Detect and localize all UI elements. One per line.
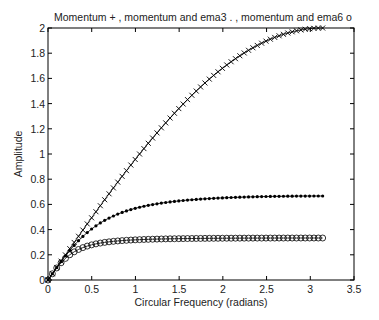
plus-marker-icon <box>159 125 164 130</box>
dot-marker-icon <box>160 202 163 205</box>
dot-marker-icon <box>216 196 219 199</box>
dot-marker-icon <box>212 197 215 200</box>
dot-marker-icon <box>247 195 250 198</box>
dot-marker-icon <box>199 198 202 201</box>
plus-marker-icon <box>137 152 142 157</box>
plus-marker-icon <box>98 203 103 208</box>
y-tick-label: 0 <box>39 274 45 286</box>
dot-marker-icon <box>225 196 228 199</box>
plus-marker-icon <box>224 62 229 67</box>
y-tick-label: 1 <box>39 148 45 160</box>
plus-marker-icon <box>93 209 98 214</box>
plus-marker-icon <box>246 48 251 53</box>
x-tick-label: 3 <box>307 283 313 295</box>
dot-marker-icon <box>81 235 84 238</box>
dot-marker-icon <box>251 195 254 198</box>
dot-marker-icon <box>299 194 302 197</box>
plus-marker-icon <box>128 163 133 168</box>
x-tick-label: 1 <box>133 283 139 295</box>
plus-marker-icon <box>76 234 81 239</box>
dot-marker-icon <box>147 204 150 207</box>
dot-marker-icon <box>177 199 180 202</box>
x-tick-label: 0 <box>45 283 51 295</box>
dot-marker-icon <box>90 227 93 230</box>
dot-marker-icon <box>77 239 80 242</box>
dot-marker-icon <box>186 199 189 202</box>
plus-marker-icon <box>133 157 138 162</box>
x-axis: 00.511.522.533.5 <box>45 28 361 295</box>
plus-marker-icon <box>146 141 151 146</box>
dot-marker-icon <box>164 201 167 204</box>
dot-marker-icon <box>190 198 193 201</box>
y-tick-label: 2 <box>39 22 45 34</box>
plus-marker-icon <box>272 35 277 40</box>
x-axis-label: Circular Frequency (radians) <box>134 296 267 308</box>
dot-marker-icon <box>304 194 307 197</box>
dot-marker-icon <box>243 195 246 198</box>
dot-marker-icon <box>295 195 298 198</box>
dot-marker-icon <box>286 195 289 198</box>
x-tick-label: 2 <box>220 283 226 295</box>
plus-marker-icon <box>281 32 286 37</box>
dot-marker-icon <box>173 200 176 203</box>
dot-marker-icon <box>73 244 76 247</box>
dot-marker-icon <box>203 197 206 200</box>
dot-marker-icon <box>112 214 115 217</box>
plus-marker-icon <box>211 73 216 78</box>
plus-marker-icon <box>172 111 177 116</box>
dot-marker-icon <box>238 196 241 199</box>
plus-marker-icon <box>229 59 234 64</box>
plus-marker-icon <box>124 168 129 173</box>
dot-marker-icon <box>234 196 237 199</box>
plus-marker-icon <box>189 93 194 98</box>
amplitude-chart: Momentum + , momentum and ema3 . , momen… <box>0 0 379 320</box>
plus-marker-icon <box>141 146 146 151</box>
plus-marker-icon <box>85 221 90 226</box>
dot-marker-icon <box>107 216 110 219</box>
plus-marker-icon <box>285 30 290 35</box>
y-tick-label: 0.8 <box>30 173 45 185</box>
dot-marker-icon <box>230 196 233 199</box>
y-tick-label: 0.2 <box>30 249 45 261</box>
chart-title: Momentum + , momentum and ema3 . , momen… <box>54 11 352 23</box>
dot-marker-icon <box>142 205 145 208</box>
dot-marker-icon <box>277 195 280 198</box>
dot-marker-icon <box>282 195 285 198</box>
y-tick-label: 0.6 <box>30 198 45 210</box>
series-momentum-and-ema6 <box>45 235 326 283</box>
plus-marker-icon <box>115 180 120 185</box>
x-tick-label: 0.5 <box>84 283 99 295</box>
plus-marker-icon <box>185 97 190 102</box>
dot-marker-icon <box>182 199 185 202</box>
dot-marker-icon <box>86 231 89 234</box>
dot-marker-icon <box>308 194 311 197</box>
dot-marker-icon <box>291 195 294 198</box>
plus-marker-icon <box>181 102 186 107</box>
dot-marker-icon <box>99 221 102 224</box>
x-tick-label: 2.5 <box>259 283 274 295</box>
dot-marker-icon <box>195 198 198 201</box>
plus-marker-icon <box>120 174 125 179</box>
dot-marker-icon <box>264 195 267 198</box>
dot-marker-icon <box>155 202 158 205</box>
dot-marker-icon <box>103 219 106 222</box>
dot-marker-icon <box>312 194 315 197</box>
dot-marker-icon <box>121 211 124 214</box>
plus-marker-icon <box>89 215 94 220</box>
dot-marker-icon <box>208 197 211 200</box>
dot-marker-icon <box>138 206 141 209</box>
y-tick-label: 1.8 <box>30 47 45 59</box>
plus-marker-icon <box>216 69 221 74</box>
plus-marker-icon <box>80 228 85 233</box>
plus-marker-icon <box>176 106 181 111</box>
y-tick-label: 1.6 <box>30 72 45 84</box>
dot-marker-icon <box>129 208 132 211</box>
plus-marker-icon <box>163 120 168 125</box>
plus-marker-icon <box>268 37 273 42</box>
dot-marker-icon <box>221 196 224 199</box>
dot-marker-icon <box>321 194 324 197</box>
dot-marker-icon <box>151 203 154 206</box>
series-momentum <box>46 26 326 283</box>
dot-marker-icon <box>116 213 119 216</box>
plus-marker-icon <box>111 185 116 190</box>
